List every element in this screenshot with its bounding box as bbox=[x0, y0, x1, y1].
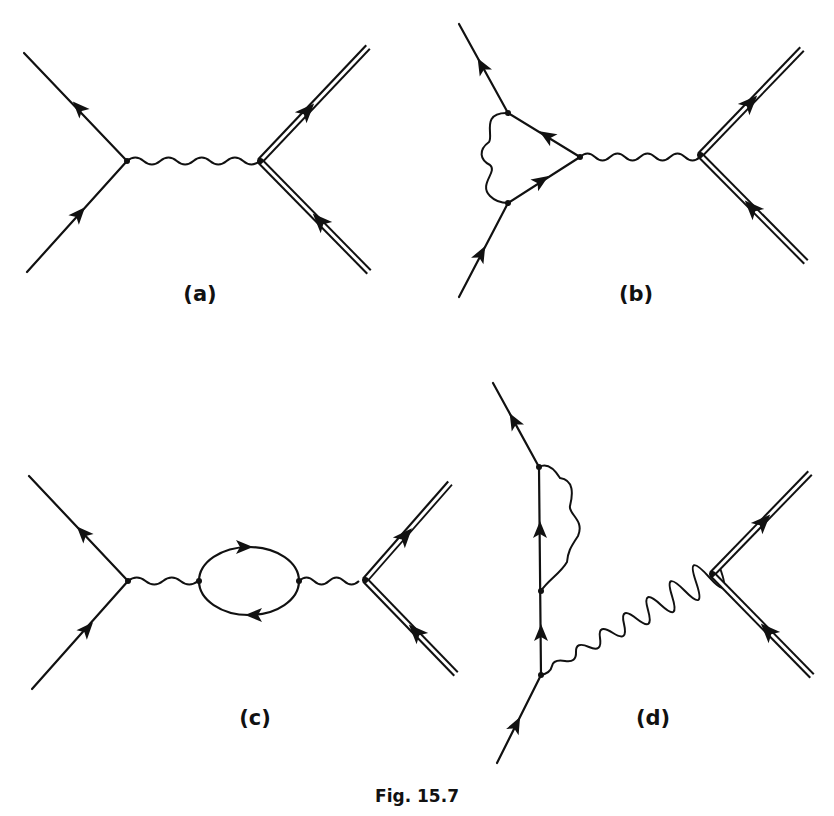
arrow-icon bbox=[472, 55, 492, 77]
photon-line bbox=[580, 154, 700, 161]
vertex-dot bbox=[196, 578, 202, 584]
photon-line bbox=[541, 565, 724, 675]
panel-label-b: (b) bbox=[619, 282, 653, 306]
arrow-icon bbox=[506, 714, 526, 736]
vertex-dot bbox=[536, 464, 542, 470]
photon-line bbox=[127, 158, 260, 165]
diagram-a bbox=[24, 45, 371, 274]
vertex-dot bbox=[362, 577, 368, 583]
arrow-icon bbox=[504, 410, 524, 432]
fermion-line-in bbox=[32, 581, 128, 689]
arrow-icon bbox=[68, 97, 90, 119]
diagram-c bbox=[29, 476, 458, 689]
diagram-b bbox=[459, 24, 808, 297]
vertex-dot bbox=[577, 154, 583, 160]
arrow-icon bbox=[536, 125, 558, 146]
fermion-line-out bbox=[493, 383, 539, 467]
internal-photon-loop bbox=[482, 113, 508, 203]
fermion-loop bbox=[199, 547, 299, 615]
vertex-dot bbox=[124, 158, 130, 164]
vertex-dot bbox=[505, 200, 511, 206]
vertex-dot bbox=[125, 578, 131, 584]
arrow-icon bbox=[530, 170, 552, 191]
panel-label-a: (a) bbox=[183, 282, 216, 306]
vertex-dot bbox=[538, 672, 544, 678]
feynman-diagrams-canvas bbox=[0, 0, 834, 816]
vertex-dot bbox=[505, 110, 511, 116]
heavy-double-line-out bbox=[260, 45, 370, 161]
feynman-figure: (a) (b) (c) (d) Fig. 15.7 bbox=[0, 0, 834, 816]
vertex-dot bbox=[257, 158, 263, 164]
panel-label-c: (c) bbox=[239, 706, 271, 730]
photon-line-left bbox=[128, 578, 198, 585]
figure-caption: Fig. 15.7 bbox=[375, 786, 459, 806]
vertex-dot bbox=[697, 152, 703, 158]
arrow-icon bbox=[471, 243, 491, 265]
vertex-dot bbox=[538, 588, 544, 594]
self-energy-photon bbox=[539, 465, 580, 591]
vertex-dot bbox=[296, 578, 302, 584]
fermion-vertical bbox=[539, 467, 541, 675]
photon-line-right bbox=[299, 578, 359, 585]
panel-label-d: (d) bbox=[636, 706, 670, 730]
vertex-dot bbox=[709, 571, 715, 577]
